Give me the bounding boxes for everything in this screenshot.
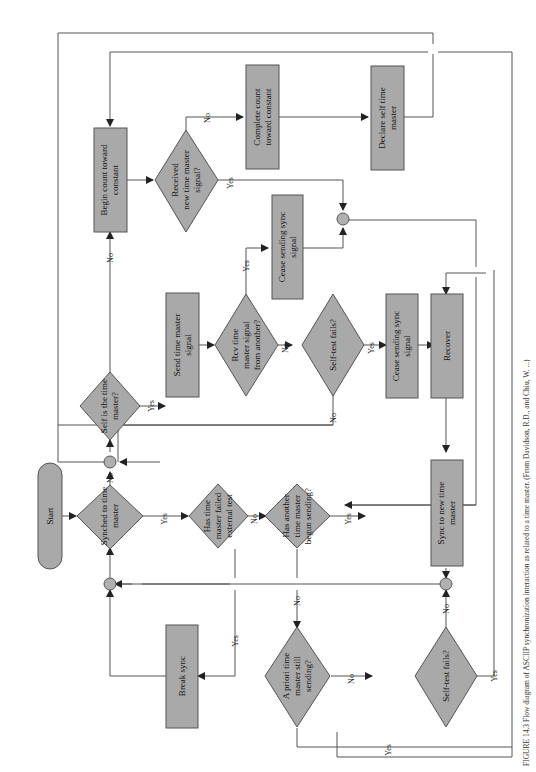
svg-text:Rcv time: Rcv time (230, 329, 240, 362)
svg-text:Yes: Yes (160, 513, 169, 525)
svg-text:Yes: Yes (344, 513, 353, 525)
svg-text:signal: signal (402, 335, 412, 357)
svg-text:A priori time: A priori time (281, 653, 291, 700)
svg-text:Complete count: Complete count (252, 88, 262, 146)
svg-text:new time master: new time master (181, 150, 191, 209)
svg-text:master still: master still (292, 656, 302, 696)
svg-text:signal: signal (183, 334, 193, 356)
svg-text:Cease sending sync: Cease sending sync (277, 212, 287, 282)
svg-text:master failed: master failed (213, 492, 223, 539)
svg-text:Self is the time: Self is the time (99, 379, 109, 433)
svg-text:No: No (250, 514, 259, 524)
svg-text:Yes: Yes (226, 177, 235, 189)
svg-text:external test: external test (224, 494, 234, 538)
svg-text:signal?: signal? (192, 167, 202, 193)
svg-text:No: No (293, 596, 302, 606)
svg-text:No: No (329, 413, 338, 423)
svg-text:Recover: Recover (442, 331, 452, 361)
svg-text:Received: Received (170, 163, 180, 197)
svg-text:signal: signal (288, 236, 298, 258)
svg-text:Synched to time: Synched to time (99, 487, 109, 546)
svg-text:No: No (203, 113, 212, 123)
svg-text:Self-test fails?: Self-test fails? (328, 319, 338, 371)
svg-text:Yes: Yes (490, 670, 499, 682)
figure-caption: FIGURE 14.3 Flow diagram of ASCIIP synch… (522, 359, 531, 766)
svg-text:Sync to new time: Sync to new time (436, 482, 446, 545)
svg-text:master signal: master signal (241, 321, 251, 369)
svg-text:No: No (106, 253, 115, 263)
complete-count-label: Complete count toward constant (252, 88, 273, 146)
merge-node (104, 456, 116, 468)
start-label: Start (45, 507, 55, 524)
svg-text:Break sync: Break sync (177, 656, 187, 696)
svg-text:Has another: Has another (281, 494, 291, 537)
svg-text:time master: time master (292, 495, 302, 537)
svg-text:No: No (347, 674, 356, 684)
svg-text:No: No (281, 343, 290, 353)
flow-diagram: Start Synched to time master Self is the… (0, 0, 536, 772)
svg-text:master: master (110, 504, 120, 528)
svg-text:begun sending?: begun sending? (303, 488, 313, 544)
svg-text:Has time: Has time (202, 500, 212, 532)
merge-node (440, 578, 452, 590)
recover-label: Recover (442, 331, 452, 361)
svg-text:Declare self time: Declare self time (377, 87, 387, 148)
svg-text:Self-test fails?: Self-test fails? (441, 650, 451, 702)
svg-text:Send time master: Send time master (172, 314, 182, 377)
svg-text:Yes: Yes (242, 260, 251, 272)
svg-text:Yes: Yes (147, 400, 156, 412)
svg-text:No: No (442, 604, 451, 614)
another-begun-label: Has another time master begun sending? (281, 488, 313, 544)
svg-text:toward constant: toward constant (263, 88, 273, 146)
merge-node (337, 213, 349, 225)
svg-text:sending?: sending? (303, 660, 313, 692)
svg-text:Cease sending sync: Cease sending sync (391, 311, 401, 381)
svg-text:Begin count toward: Begin count toward (99, 144, 109, 215)
svg-text:from another?: from another? (252, 320, 262, 371)
break-sync-label: Break sync (177, 656, 187, 696)
self-test-label-2: Self-test fails? (441, 650, 451, 702)
self-test-label-1: Self-test fails? (328, 319, 338, 371)
svg-text:No: No (106, 473, 115, 483)
svg-text:master: master (447, 501, 457, 525)
merge-node (104, 578, 116, 590)
svg-text:Start: Start (45, 507, 55, 524)
svg-text:Yes: Yes (231, 635, 240, 647)
svg-text:master?: master? (110, 392, 120, 420)
svg-text:constant: constant (110, 165, 120, 195)
svg-text:Yes: Yes (367, 342, 376, 354)
svg-text:Yes: Yes (384, 744, 393, 756)
svg-text:master: master (388, 106, 398, 130)
